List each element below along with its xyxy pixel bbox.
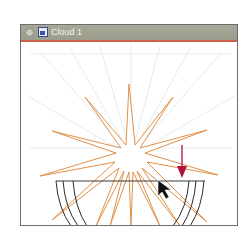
red-arrow-icon	[177, 145, 187, 178]
artboard-canvas[interactable]	[0, 0, 250, 237]
